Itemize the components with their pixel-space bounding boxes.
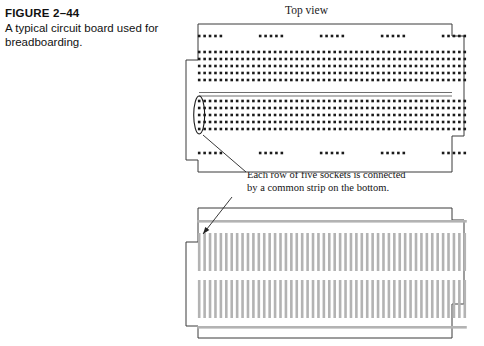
lower-grid-socket[interactable] <box>279 128 282 131</box>
upper-strip-bank-strip[interactable] <box>230 233 233 271</box>
upper-strip-bank-strip[interactable] <box>393 233 396 271</box>
upper-grid-socket[interactable] <box>404 79 407 82</box>
upper-strip-bank-strip[interactable] <box>366 233 369 271</box>
upper-grid-socket[interactable] <box>447 58 450 61</box>
lower-strip-bank-strip[interactable] <box>339 280 342 318</box>
upper-grid-socket[interactable] <box>274 65 277 68</box>
upper-strip-bank-strip[interactable] <box>453 233 456 271</box>
lower-grid-socket[interactable] <box>409 114 412 117</box>
lower-strip-bank-strip[interactable] <box>225 280 228 318</box>
lower-grid-socket[interactable] <box>344 114 347 117</box>
upper-grid-socket[interactable] <box>431 72 434 75</box>
lower-grid-socket[interactable] <box>247 121 250 124</box>
lower-grid-socket[interactable] <box>447 114 450 117</box>
upper-grid-socket[interactable] <box>453 65 456 68</box>
lower-grid-socket[interactable] <box>247 128 250 131</box>
upper-grid-socket[interactable] <box>198 65 201 68</box>
lower-grid-socket[interactable] <box>268 107 271 110</box>
lower-grid-socket[interactable] <box>463 107 466 110</box>
lower-grid-socket[interactable] <box>463 128 466 131</box>
lower-grid-socket[interactable] <box>247 107 250 110</box>
lower-grid-socket[interactable] <box>350 114 353 117</box>
upper-grid-socket[interactable] <box>268 51 271 54</box>
upper-grid-socket[interactable] <box>236 51 239 54</box>
upper-grid-socket[interactable] <box>339 79 342 82</box>
lower-grid-socket[interactable] <box>361 114 364 117</box>
upper-grid-socket[interactable] <box>366 58 369 61</box>
lower-grid-socket[interactable] <box>431 100 434 103</box>
upper-grid-socket[interactable] <box>295 72 298 75</box>
upper-grid-socket[interactable] <box>420 72 423 75</box>
upper-grid-socket[interactable] <box>361 51 364 54</box>
power-rail-bottom-socket[interactable] <box>220 152 223 155</box>
lower-strip-bank-strip[interactable] <box>371 280 374 318</box>
upper-grid-socket[interactable] <box>377 51 380 54</box>
upper-grid-socket[interactable] <box>420 65 423 68</box>
upper-grid-socket[interactable] <box>252 58 255 61</box>
lower-grid-socket[interactable] <box>258 114 261 117</box>
power-rail-top-socket[interactable] <box>397 35 400 38</box>
lower-grid-socket[interactable] <box>209 100 212 103</box>
lower-grid-socket[interactable] <box>301 121 304 124</box>
lower-grid-socket[interactable] <box>431 128 434 131</box>
upper-grid-socket[interactable] <box>415 58 418 61</box>
power-rail-bottom-socket[interactable] <box>203 152 206 155</box>
upper-strip-bank-strip[interactable] <box>398 233 401 271</box>
lower-grid-socket[interactable] <box>447 121 450 124</box>
upper-grid-socket[interactable] <box>285 79 288 82</box>
power-rail-top-socket[interactable] <box>336 35 339 38</box>
upper-grid-socket[interactable] <box>290 58 293 61</box>
lower-grid-socket[interactable] <box>301 107 304 110</box>
lower-grid-socket[interactable] <box>420 107 423 110</box>
lower-grid-socket[interactable] <box>355 107 358 110</box>
power-rail-bottom-socket[interactable] <box>447 152 450 155</box>
upper-grid-socket[interactable] <box>214 65 217 68</box>
upper-grid-socket[interactable] <box>317 79 320 82</box>
lower-grid-socket[interactable] <box>323 114 326 117</box>
lower-grid-socket[interactable] <box>447 128 450 131</box>
upper-grid-socket[interactable] <box>393 79 396 82</box>
upper-grid-socket[interactable] <box>209 58 212 61</box>
power-rail-top-socket[interactable] <box>214 35 217 38</box>
lower-grid-socket[interactable] <box>404 100 407 103</box>
upper-grid-socket[interactable] <box>268 72 271 75</box>
upper-grid-socket[interactable] <box>214 51 217 54</box>
upper-grid-socket[interactable] <box>230 79 233 82</box>
lower-grid-socket[interactable] <box>436 107 439 110</box>
upper-grid-socket[interactable] <box>339 65 342 68</box>
upper-grid-socket[interactable] <box>247 79 250 82</box>
upper-grid-socket[interactable] <box>279 65 282 68</box>
upper-strip-bank-strip[interactable] <box>295 233 298 271</box>
upper-strip-bank-strip[interactable] <box>404 233 407 271</box>
upper-grid-socket[interactable] <box>295 51 298 54</box>
lower-grid-socket[interactable] <box>225 107 228 110</box>
lower-grid-socket[interactable] <box>442 107 445 110</box>
lower-grid-socket[interactable] <box>463 121 466 124</box>
lower-grid-socket[interactable] <box>258 100 261 103</box>
lower-grid-socket[interactable] <box>290 128 293 131</box>
lower-grid-socket[interactable] <box>317 107 320 110</box>
upper-grid-socket[interactable] <box>274 72 277 75</box>
upper-grid-socket[interactable] <box>241 51 244 54</box>
lower-grid-socket[interactable] <box>442 128 445 131</box>
lower-grid-socket[interactable] <box>409 107 412 110</box>
upper-grid-socket[interactable] <box>306 51 309 54</box>
lower-grid-socket[interactable] <box>350 121 353 124</box>
upper-grid-socket[interactable] <box>236 79 239 82</box>
lower-grid-socket[interactable] <box>312 121 315 124</box>
lower-grid-socket[interactable] <box>339 100 342 103</box>
upper-grid-socket[interactable] <box>295 65 298 68</box>
lower-grid-socket[interactable] <box>333 107 336 110</box>
power-rail-bottom-socket[interactable] <box>463 152 466 155</box>
upper-grid-socket[interactable] <box>344 79 347 82</box>
upper-grid-socket[interactable] <box>290 65 293 68</box>
upper-strip-bank-strip[interactable] <box>236 233 239 271</box>
upper-grid-socket[interactable] <box>209 79 212 82</box>
lower-strip-bank-strip[interactable] <box>344 280 347 318</box>
lower-grid-socket[interactable] <box>382 100 385 103</box>
upper-grid-socket[interactable] <box>225 72 228 75</box>
lower-grid-socket[interactable] <box>382 121 385 124</box>
upper-grid-socket[interactable] <box>198 51 201 54</box>
lower-grid-socket[interactable] <box>393 121 396 124</box>
lower-grid-socket[interactable] <box>252 114 255 117</box>
